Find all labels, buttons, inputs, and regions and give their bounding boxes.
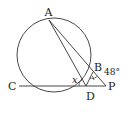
label-a: A (44, 6, 54, 19)
angle-label-48: 48° (104, 67, 120, 77)
segment-ad (49, 20, 86, 86)
label-d: D (86, 90, 95, 103)
geometry-figure: A B C D P 48° x (0, 0, 129, 116)
angle-arc-x (79, 80, 83, 87)
label-b: B (94, 61, 102, 74)
angle-label-x: x (72, 74, 78, 85)
label-c: C (8, 80, 16, 93)
label-p: P (108, 80, 116, 93)
angle-tick-b (93, 76, 95, 80)
segment-bd (86, 72, 93, 86)
diagram-canvas: A B C D P 48° x (0, 0, 129, 116)
